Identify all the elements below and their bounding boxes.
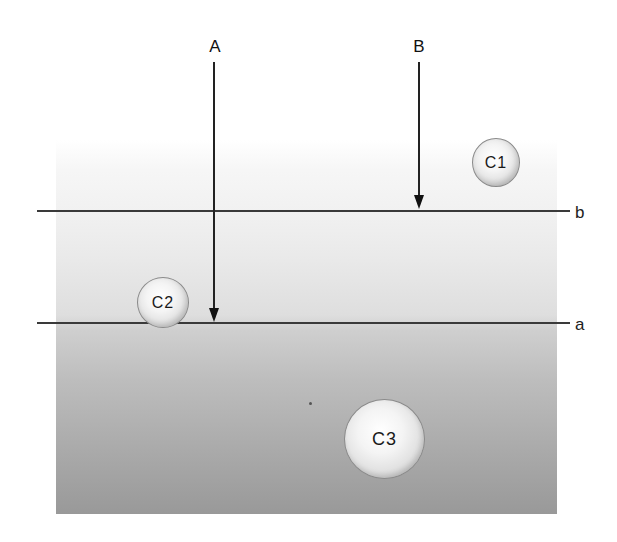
interface-label-a: a	[575, 316, 584, 333]
particle-label-c3: C3	[372, 430, 397, 448]
particle-c3: C3	[344, 399, 425, 479]
particle-label-c1: C1	[485, 155, 507, 171]
speck-artifact	[309, 402, 312, 405]
interface-line-a	[37, 322, 570, 324]
arrow-down-icon	[209, 308, 219, 322]
gradient-medium	[56, 140, 557, 514]
ray-label-a: A	[209, 38, 220, 55]
ray-a-shaft	[213, 62, 215, 309]
particle-label-c2: C2	[152, 295, 174, 311]
diagram-canvas: b a A B C1 C2 C3	[0, 0, 617, 542]
interface-label-b: b	[575, 204, 584, 221]
ray-b-shaft	[418, 62, 420, 196]
particle-c1: C1	[472, 138, 520, 187]
arrow-down-icon	[414, 195, 424, 209]
particle-c2: C2	[137, 277, 189, 328]
ray-label-b: B	[413, 38, 424, 55]
interface-line-b	[37, 210, 570, 212]
